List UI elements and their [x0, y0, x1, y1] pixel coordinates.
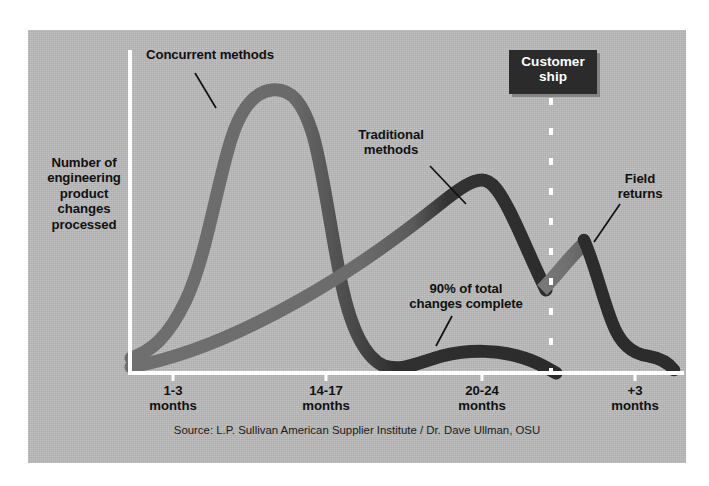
- x-tick-label-2: 14-17 months: [271, 383, 381, 413]
- source-note: Source: L.P. Sullivan American Supplier …: [28, 424, 686, 436]
- leader-line-field-returns: [594, 204, 620, 242]
- series-field-returns: [542, 242, 586, 290]
- annotation-field-returns: Field returns: [604, 172, 676, 202]
- leader-line-concurrent: [195, 73, 216, 108]
- x-tick-label-1: 1-3 months: [118, 383, 228, 413]
- customer-ship-badge: Customer ship: [509, 50, 597, 94]
- annotation-ninety-percent-complete: 90% of total changes complete: [392, 282, 540, 312]
- y-axis-title: Number of engineering product changes pr…: [38, 155, 130, 232]
- annotation-traditional-methods: Traditional methods: [338, 128, 444, 158]
- x-tick-label-4: +3 months: [580, 383, 690, 413]
- customer-ship-label: Customer ship: [509, 54, 597, 84]
- leader-line-ninety-percent: [436, 316, 452, 346]
- x-tick-label-3: 20-24 months: [427, 383, 537, 413]
- series-traditional-decline: [584, 240, 674, 370]
- chart-figure: Number of engineering product changes pr…: [0, 0, 709, 486]
- annotation-concurrent-methods: Concurrent methods: [146, 48, 274, 63]
